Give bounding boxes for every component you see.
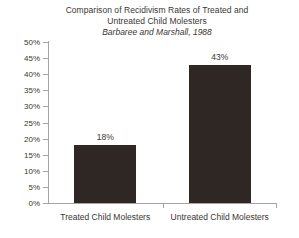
y-axis-tick: [43, 90, 48, 91]
y-axis-label: 0%: [28, 199, 40, 208]
y-axis-label: 20%: [24, 134, 40, 143]
x-axis-tick-end: [276, 204, 277, 208]
bar-chart: Comparison of Recidivism Rates of Treate…: [0, 0, 299, 238]
y-axis-label: 25%: [24, 118, 40, 127]
x-axis-tick-middle: [163, 204, 164, 208]
bar-value-untreated: 43%: [190, 52, 250, 62]
y-axis-label: 10%: [24, 166, 40, 175]
bar-treated: [74, 145, 136, 203]
y-axis-label: 5%: [28, 182, 40, 191]
category-label-treated: Treated Child Molesters: [45, 212, 165, 222]
plot-area: 50%45%40%35%30%25%20%15%10%5%0% 18% 43%: [48, 42, 277, 203]
y-axis-tick: [43, 155, 48, 156]
y-axis-tick: [43, 106, 48, 107]
category-label-untreated: Untreated Child Molesters: [160, 212, 280, 222]
chart-title-block: Comparison of Recidivism Rates of Treate…: [28, 5, 286, 39]
y-axis-tick: [43, 58, 48, 59]
y-axis-label: 40%: [24, 70, 40, 79]
y-axis-label: 50%: [24, 38, 40, 47]
y-axis-tick: [43, 139, 48, 140]
y-axis-label: 30%: [24, 102, 40, 111]
y-axis-label: 15%: [24, 150, 40, 159]
bar-value-treated: 18%: [75, 132, 135, 142]
y-axis-label: 45%: [24, 54, 40, 63]
y-axis-tick: [43, 187, 48, 188]
chart-title-line-1: Comparison of Recidivism Rates of Treate…: [28, 5, 286, 16]
y-axis-tick: [43, 42, 48, 43]
y-axis-tick: [43, 203, 48, 204]
y-axis-label: 35%: [24, 86, 40, 95]
y-axis-tick: [43, 171, 48, 172]
y-axis-tick: [43, 74, 48, 75]
chart-title-line-2: Untreated Child Molesters: [28, 16, 286, 27]
bar-untreated: [189, 65, 251, 203]
chart-subtitle: Barbaree and Marshall, 1988: [28, 27, 286, 39]
y-axis-tick: [43, 123, 48, 124]
